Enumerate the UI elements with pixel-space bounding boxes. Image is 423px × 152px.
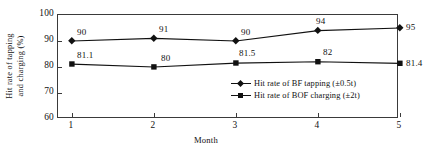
x-tick-label-2: 2 xyxy=(151,121,156,130)
series-plot xyxy=(58,15,399,119)
legend-label-bf-tapping: Hit rate of BF tapping (±0.5t) xyxy=(254,79,356,88)
y-axis-title-line1: Hit rate of tapping xyxy=(5,33,16,98)
point-label-bf-2: 91 xyxy=(159,25,168,34)
y-tick-label-60: 60 xyxy=(28,113,54,122)
y-axis-title: Hit rate of tapping and charging (%) xyxy=(2,14,28,118)
point-label-bf-3: 90 xyxy=(241,28,250,37)
x-tick-label-3: 3 xyxy=(233,121,238,130)
point-label-bof-2: 80 xyxy=(161,54,170,63)
point-label-bof-1: 81.1 xyxy=(77,51,94,60)
legend-marker-diamond-icon xyxy=(231,79,251,89)
chart-legend: Hit rate of BF tapping (±0.5t) Hit rate … xyxy=(231,78,360,102)
series-markers-bf-tapping xyxy=(68,24,403,44)
x-tick-label-5: 5 xyxy=(397,121,402,130)
y-axis-tick-labels: 100 90 80 70 60 xyxy=(26,0,54,152)
y-axis-title-line2: and charging (%) xyxy=(15,33,26,98)
point-label-bf-5: 95 xyxy=(406,23,415,32)
point-label-bf-1: 90 xyxy=(77,28,86,37)
legend-item-bf-tapping[interactable]: Hit rate of BF tapping (±0.5t) xyxy=(231,78,360,89)
legend-item-bof-charging[interactable]: Hit rate of BOF charging (±2t) xyxy=(231,90,360,101)
point-label-bof-4: 82 xyxy=(323,48,332,57)
y-tick-label-100: 100 xyxy=(28,9,54,18)
legend-label-bof-charging: Hit rate of BOF charging (±2t) xyxy=(254,91,360,100)
x-tick-label-4: 4 xyxy=(315,121,320,130)
y-tick-label-70: 70 xyxy=(28,87,54,96)
series-markers-bof-charging xyxy=(69,59,402,70)
point-label-bof-5: 81.4 xyxy=(406,59,423,68)
point-label-bof-3: 81.5 xyxy=(239,49,256,58)
y-tick-label-80: 80 xyxy=(28,61,54,70)
x-tickmark-5 xyxy=(400,113,401,117)
plot-area: 90 91 90 94 95 81.1 80 81.5 82 81.4 xyxy=(57,14,398,118)
legend-marker-square-icon xyxy=(231,91,251,101)
x-axis-title: Month xyxy=(0,136,412,145)
y-tick-label-90: 90 xyxy=(28,35,54,44)
point-label-bf-4: 94 xyxy=(316,17,325,26)
x-tick-label-1: 1 xyxy=(69,121,74,130)
